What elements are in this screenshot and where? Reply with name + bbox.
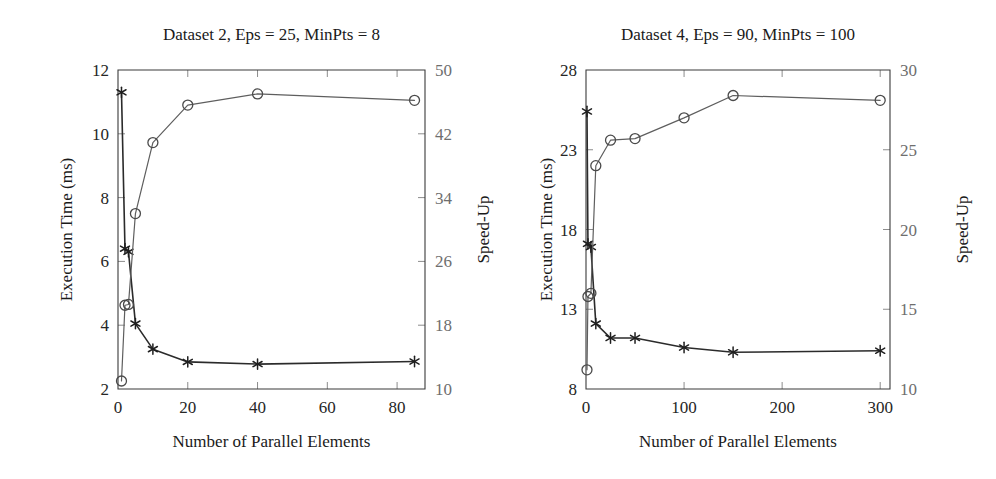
chart-title: Dataset 2, Eps = 25, MinPts = 8 bbox=[163, 25, 380, 44]
y2-axis-tick-label: 34 bbox=[435, 189, 453, 208]
y-axis-tick-label: 23 bbox=[560, 141, 577, 160]
x-axis-tick-label: 300 bbox=[867, 398, 893, 417]
data-series-group bbox=[116, 87, 419, 386]
y-axis-title: Execution Time (ms) bbox=[57, 158, 76, 302]
x-axis-tick-labels: 0100200300 bbox=[582, 398, 893, 417]
y2-axis-tick-label: 26 bbox=[435, 252, 452, 271]
chart-svg-dataset-4: Dataset 4, Eps = 90, MinPts = 100 813182… bbox=[498, 0, 996, 479]
data-series-group bbox=[582, 91, 885, 375]
y-axis-tick-label: 8 bbox=[101, 189, 110, 208]
y2-axis-tick-labels: 101826344250 bbox=[435, 61, 453, 399]
x-axis-tick-label: 100 bbox=[671, 398, 697, 417]
y2-axis-tick-label: 50 bbox=[435, 61, 452, 80]
x-axis-title: Number of Parallel Elements bbox=[173, 432, 371, 451]
data-point-marker-star bbox=[582, 106, 591, 116]
y2-axis-title: Speed-Up bbox=[953, 196, 972, 264]
x-axis-tick-label: 80 bbox=[389, 398, 406, 417]
x-axis-tick-label: 0 bbox=[114, 398, 123, 417]
y2-axis-tick-label: 30 bbox=[900, 61, 917, 80]
y-axis-tick-label: 13 bbox=[560, 300, 577, 319]
x-axis-tick-label: 40 bbox=[249, 398, 266, 417]
figure-two-panel-chart: Dataset 2, Eps = 25, MinPts = 8 24681012… bbox=[0, 0, 996, 479]
y2-axis-tick-label: 25 bbox=[900, 141, 917, 160]
y-axis-tick-label: 2 bbox=[101, 380, 110, 399]
y2-axis-tick-label: 18 bbox=[435, 316, 452, 335]
chart-svg-dataset-2: Dataset 2, Eps = 25, MinPts = 8 24681012… bbox=[0, 0, 498, 479]
y2-axis-tick-label: 10 bbox=[435, 380, 452, 399]
y2-axis-tick-label: 20 bbox=[900, 221, 917, 240]
y-axis-tick-labels: 813182328 bbox=[560, 61, 577, 399]
chart-title: Dataset 4, Eps = 90, MinPts = 100 bbox=[621, 25, 855, 44]
series-line-speedup bbox=[121, 94, 414, 381]
y-axis-title: Execution Time (ms) bbox=[537, 158, 556, 302]
plot-frame bbox=[118, 70, 425, 389]
y-axis-tick-label: 4 bbox=[101, 316, 110, 335]
y2-axis-tick-label: 10 bbox=[900, 380, 917, 399]
x-axis-tick-label: 60 bbox=[319, 398, 336, 417]
plot-frame bbox=[586, 70, 890, 389]
x-axis-title: Number of Parallel Elements bbox=[639, 432, 837, 451]
x-axis-tick-label: 200 bbox=[769, 398, 795, 417]
y-axis-tick-label: 10 bbox=[92, 125, 109, 144]
y-axis-tick-label: 12 bbox=[92, 61, 109, 80]
chart-panel-dataset-4: Dataset 4, Eps = 90, MinPts = 100 813182… bbox=[498, 0, 996, 479]
x-axis-tick-label: 20 bbox=[179, 398, 196, 417]
y-axis-tick-labels: 24681012 bbox=[92, 61, 110, 399]
y-axis-tick-label: 6 bbox=[101, 252, 110, 271]
series-line-execution-time bbox=[121, 92, 414, 364]
y2-axis-tick-label: 42 bbox=[435, 125, 452, 144]
axis-tick-marks bbox=[586, 70, 890, 389]
y2-axis-tick-labels: 1015202530 bbox=[900, 61, 917, 399]
x-axis-tick-label: 0 bbox=[582, 398, 591, 417]
x-axis-tick-labels: 020406080 bbox=[114, 398, 406, 417]
series-line-execution-time bbox=[587, 111, 880, 352]
y-axis-tick-label: 8 bbox=[569, 380, 578, 399]
chart-panel-dataset-2: Dataset 2, Eps = 25, MinPts = 8 24681012… bbox=[0, 0, 498, 479]
axis-tick-marks bbox=[118, 70, 425, 389]
y2-axis-title: Speed-Up bbox=[474, 196, 493, 264]
y-axis-tick-label: 28 bbox=[560, 61, 577, 80]
y2-axis-tick-label: 15 bbox=[900, 300, 917, 319]
y-axis-tick-label: 18 bbox=[560, 221, 577, 240]
